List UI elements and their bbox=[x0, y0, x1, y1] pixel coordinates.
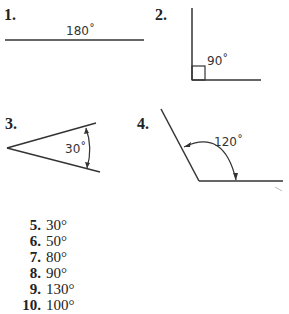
figure-4-angle-label: 120˚ bbox=[214, 135, 243, 149]
figure-1-number: 1. bbox=[4, 6, 16, 24]
answer-item: 7.80° bbox=[8, 249, 75, 265]
arc-arrow-left-icon bbox=[184, 142, 191, 147]
answer-item: 6.50° bbox=[8, 233, 75, 249]
answer-number: 9. bbox=[8, 281, 46, 297]
arc-arrow-down-icon bbox=[85, 162, 90, 168]
right-angle-marker bbox=[192, 66, 205, 80]
answer-item: 5.30° bbox=[8, 217, 75, 233]
obtuse-angle-slanted-ray bbox=[161, 109, 199, 181]
figure-3-angle-label: 30˚ bbox=[65, 142, 86, 156]
answer-number: 6. bbox=[8, 233, 46, 249]
answer-value: 90° bbox=[46, 265, 67, 281]
answer-value: 130° bbox=[46, 281, 75, 297]
answer-number: 10. bbox=[8, 297, 46, 313]
figure-3-number: 3. bbox=[5, 115, 17, 133]
answer-number: 8. bbox=[8, 265, 46, 281]
stray-mark bbox=[275, 187, 282, 191]
answer-value: 50° bbox=[46, 233, 67, 249]
answer-value: 100° bbox=[46, 297, 75, 313]
arc-arrow-up-icon bbox=[84, 128, 89, 134]
acute-angle-arc bbox=[86, 128, 90, 168]
figure-1-angle-label: 180˚ bbox=[66, 24, 95, 38]
answer-number: 5. bbox=[8, 217, 46, 233]
answer-list: 5.30° 6.50° 7.80° 8.90° 9.130° 10.100° bbox=[8, 217, 75, 313]
figure-2-angle-label: 90˚ bbox=[207, 54, 228, 68]
answer-item: 8.90° bbox=[8, 265, 75, 281]
answer-item: 10.100° bbox=[8, 297, 75, 313]
answer-value: 80° bbox=[46, 249, 67, 265]
answer-item: 9.130° bbox=[8, 281, 75, 297]
figure-4-number: 4. bbox=[137, 115, 149, 133]
figure-2-number: 2. bbox=[155, 6, 167, 24]
answer-number: 7. bbox=[8, 249, 46, 265]
answer-value: 30° bbox=[46, 217, 67, 233]
